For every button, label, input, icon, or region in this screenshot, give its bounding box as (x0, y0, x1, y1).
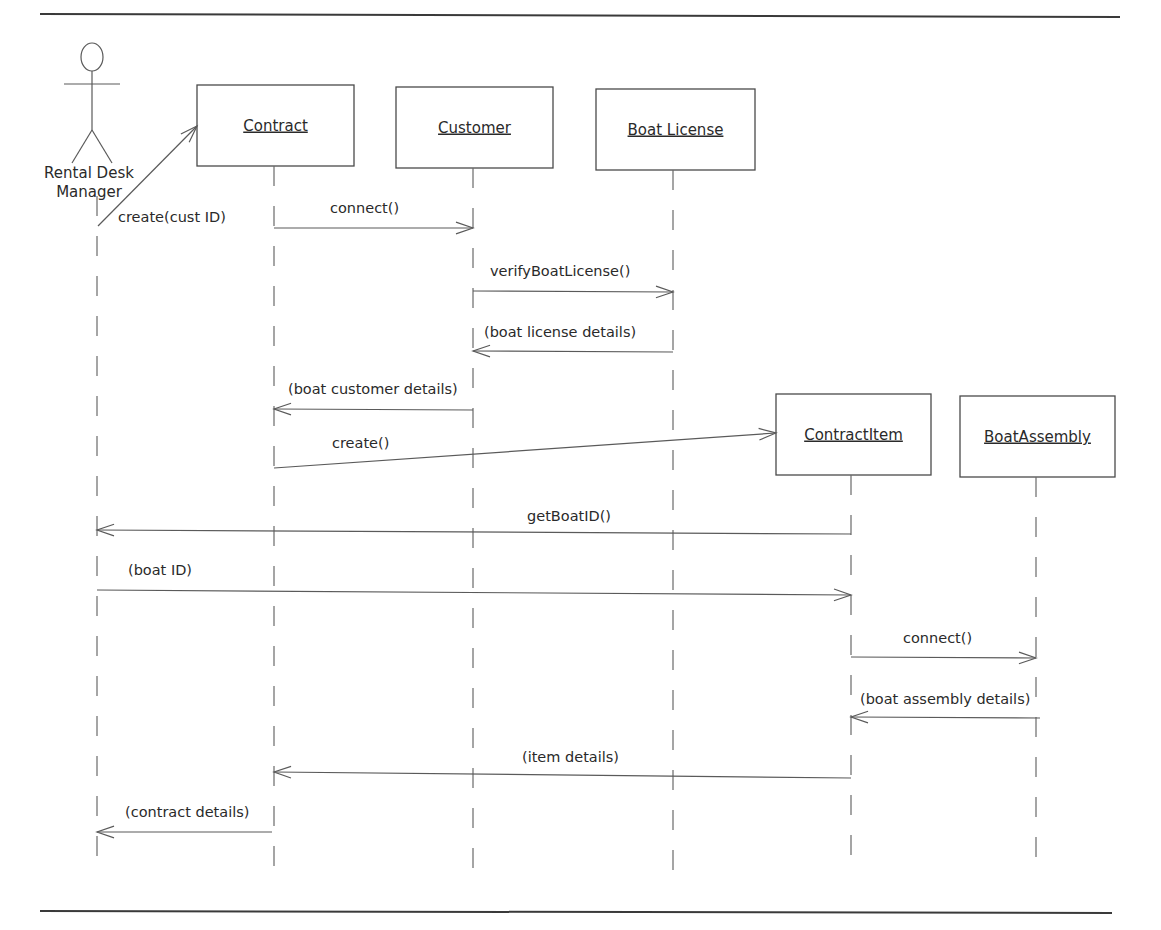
message-label: (item details) (522, 749, 619, 765)
message-item-details[interactable]: (item details) (274, 749, 851, 778)
bottom-rule (40, 911, 1112, 913)
message-contract-details[interactable]: (contract details) (97, 804, 272, 838)
object-label: BoatAssembly (984, 428, 1091, 446)
message-label: create(cust ID) (118, 209, 226, 225)
message-line (274, 772, 851, 778)
message-line (473, 291, 673, 292)
actor-rental-desk-manager[interactable]: Rental Desk Manager (44, 43, 134, 875)
message-label: (contract details) (125, 804, 249, 820)
object-label: ContractItem (804, 426, 903, 444)
message-boat-assembly-details[interactable]: (boat assembly details) (851, 691, 1040, 723)
message-label: connect() (330, 200, 399, 216)
message-line (274, 409, 473, 410)
sequence-diagram: Rental Desk Manager ContractCustomerBoat… (0, 0, 1161, 930)
object-label: Boat License (628, 121, 724, 139)
message-line (851, 717, 1040, 718)
top-rule (40, 14, 1120, 17)
message-get-boat-id[interactable]: getBoatID() (97, 508, 851, 536)
message-label: create() (332, 435, 389, 451)
message-label: (boat customer details) (288, 381, 458, 397)
message-connect-1[interactable]: connect() (274, 200, 473, 234)
message-verify-boat-license[interactable]: verifyBoatLicense() (473, 263, 673, 298)
message-line (851, 657, 1036, 658)
message-boat-customer-details[interactable]: (boat customer details) (274, 381, 473, 415)
message-label: connect() (903, 630, 972, 646)
stick-figure-icon (64, 43, 120, 163)
message-line (473, 351, 673, 352)
message-label: (boat assembly details) (860, 691, 1030, 707)
message-connect-2[interactable]: connect() (851, 630, 1036, 664)
object-boat-license[interactable]: Boat License (596, 89, 755, 877)
object-boat-assembly[interactable]: BoatAssembly (960, 396, 1115, 862)
message-boat-license-details[interactable]: (boat license details) (473, 324, 673, 357)
message-label: (boat license details) (484, 324, 636, 340)
message-create-item[interactable]: create() (274, 428, 776, 468)
message-label: verifyBoatLicense() (490, 263, 630, 279)
actor-name-line1: Rental Desk (44, 164, 134, 182)
messages: create(cust ID)connect()verifyBoatLicens… (97, 126, 1040, 838)
message-line (97, 590, 851, 595)
object-contract-item[interactable]: ContractItem (776, 394, 931, 860)
message-label: (boat ID) (128, 562, 192, 578)
actor-name-line2: Manager (56, 183, 123, 201)
object-label: Contract (243, 117, 308, 135)
message-line (97, 530, 851, 534)
object-label: Customer (438, 119, 512, 137)
message-boat-id[interactable]: (boat ID) (97, 562, 851, 601)
message-label: getBoatID() (527, 508, 611, 524)
